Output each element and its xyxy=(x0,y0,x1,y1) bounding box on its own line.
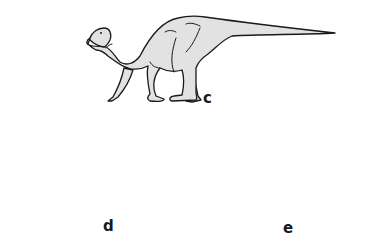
panel-label-e: e xyxy=(283,221,293,236)
panel-label-d: d xyxy=(103,219,114,234)
panel-label-c: c xyxy=(203,91,212,106)
figure-canvas xyxy=(0,0,391,250)
dinosaur-posture-figure: c d e xyxy=(0,0,391,250)
